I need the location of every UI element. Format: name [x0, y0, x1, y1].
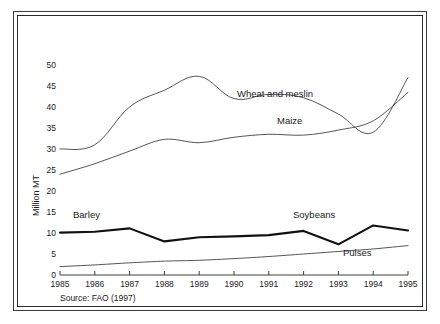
source-note: Source: FAO (1997) — [60, 293, 136, 303]
series-label-wheat-and-meslin: Wheat and meslin — [237, 88, 313, 99]
y-tick-10: 10 — [47, 228, 57, 238]
series-label-maize: Maize — [277, 115, 302, 126]
series-paths — [60, 76, 408, 266]
series-label-barley: Barley — [73, 209, 100, 220]
y-tick-20: 20 — [47, 186, 57, 196]
y-tick-45: 45 — [47, 81, 57, 91]
x-tick-1985: 1985 — [51, 279, 70, 289]
series-line-barley-soybeans — [60, 225, 408, 244]
y-tick-35: 35 — [47, 123, 57, 133]
series-label-pulses: Pulses — [343, 247, 372, 258]
y-axis-tick-labels: 50 45 40 35 30 25 20 15 10 5 0 — [47, 60, 57, 280]
x-tick-1994: 1994 — [364, 279, 383, 289]
x-axis-tick-labels: 1985 1986 1987 1988 1989 1990 1991 1992 … — [51, 279, 418, 289]
x-tick-1988: 1988 — [155, 279, 174, 289]
x-tick-1990: 1990 — [225, 279, 244, 289]
chart-figure: 50 45 40 35 30 25 20 15 10 5 0 Million M… — [0, 0, 440, 324]
x-axis — [60, 271, 408, 275]
y-tick-30: 30 — [47, 144, 57, 154]
x-tick-1995: 1995 — [399, 279, 418, 289]
y-tick-15: 15 — [47, 207, 57, 217]
x-tick-1989: 1989 — [190, 279, 209, 289]
line-chart-canvas: 50 45 40 35 30 25 20 15 10 5 0 Million M… — [18, 16, 424, 308]
x-tick-1993: 1993 — [329, 279, 348, 289]
series-line-maize — [60, 92, 408, 174]
x-tick-1991: 1991 — [259, 279, 278, 289]
y-tick-50: 50 — [47, 60, 57, 70]
series-line-wheat-and-meslin — [60, 76, 408, 149]
series-label-soybeans: Soybeans — [293, 209, 336, 220]
figure-outer-border: 50 45 40 35 30 25 20 15 10 5 0 Million M… — [13, 11, 427, 311]
y-tick-5: 5 — [51, 249, 56, 259]
x-tick-1986: 1986 — [85, 279, 104, 289]
y-axis-title: Million MT — [31, 174, 41, 216]
series-annotations: Wheat and meslin Maize Barley Soybeans P… — [73, 88, 372, 258]
x-tick-1987: 1987 — [120, 279, 139, 289]
figure-inner-border: 50 45 40 35 30 25 20 15 10 5 0 Million M… — [17, 15, 423, 307]
y-tick-25: 25 — [47, 165, 57, 175]
x-tick-1992: 1992 — [294, 279, 313, 289]
y-tick-40: 40 — [47, 102, 57, 112]
